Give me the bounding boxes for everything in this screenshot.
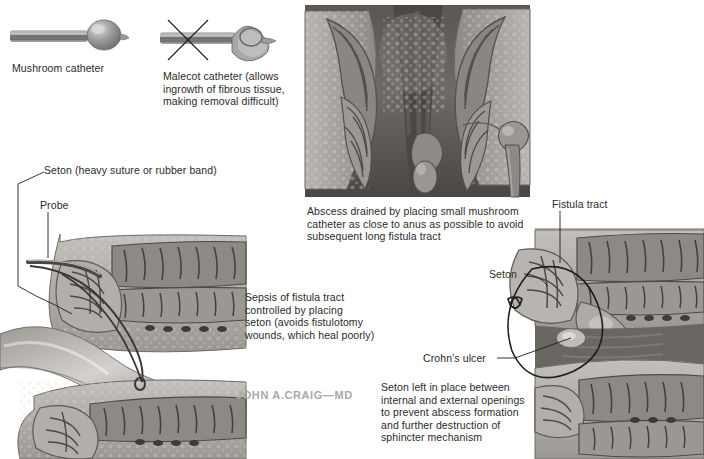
mushroom-catheter-label: Mushroom catheter [12,62,104,75]
fistula-tract-leader-line [556,211,566,263]
illustration-plate: Mushroom catheter Malecot catheter (allo… [0,0,704,459]
seton-loop-leader-line [524,272,552,288]
right-lower-caption: Seton left in place between internal and… [381,381,571,444]
top-center-caption: Abscess drained by placing small mushroo… [307,205,557,243]
crohns-ulcer-leader-line [497,334,577,366]
left-lower-caption: Sepsis of fistula tract controlled by pl… [245,291,405,341]
fistula-tract-label: Fistula tract [552,198,608,211]
probe-leader-line [44,212,54,258]
probe-label: Probe [40,199,69,212]
artist-signature: JOHN A.CRAIG—MD [236,389,353,401]
mushroom-catheter-icon [8,14,138,60]
crohns-ulcer-label: Crohn’s ulcer [423,352,486,365]
x-cross-mark [166,18,210,62]
anal-canal-abscess-drainage-illustration [305,5,530,197]
seton-loop-label: Seton [489,268,517,281]
malecot-catheter-caption: Malecot catheter (allows ingrowth of fib… [163,70,303,108]
